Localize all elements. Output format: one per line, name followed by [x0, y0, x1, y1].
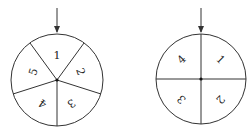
four-sector-spinner: 1 2 3 4 — [156, 8, 246, 124]
sector-label: 4 — [36, 96, 49, 111]
sector-label: 3 — [65, 96, 78, 111]
center-pivot — [55, 78, 58, 81]
pointer-arrowhead-icon — [54, 26, 60, 33]
spinner-diagram: 1 2 3 4 5 1 2 3 4 — [0, 0, 252, 134]
sector-label: 4 — [175, 53, 189, 67]
sector-divider — [13, 80, 57, 94]
sector-label: 1 — [213, 53, 227, 67]
sector-label: 2 — [213, 92, 227, 106]
sector-divider — [57, 80, 101, 94]
sector-label: 5 — [26, 67, 41, 78]
center-pivot — [199, 77, 202, 80]
sector-label: 3 — [175, 92, 189, 106]
five-sector-spinner: 1 2 3 4 5 — [11, 8, 103, 126]
sector-label: 2 — [73, 67, 88, 78]
sector-label: 1 — [54, 49, 61, 62]
pointer-arrowhead-icon — [198, 26, 204, 33]
